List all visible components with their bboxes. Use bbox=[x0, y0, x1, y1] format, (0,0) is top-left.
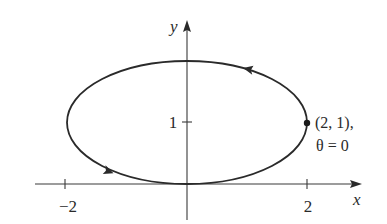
y-tick-label-1: 1 bbox=[169, 113, 178, 132]
point-2-1 bbox=[304, 120, 310, 126]
direction-arrow-top-icon bbox=[242, 64, 253, 74]
ellipse-diagram: y x −2 2 1 (2, 1), θ = 0 bbox=[0, 0, 387, 224]
x-axis-label: x bbox=[352, 190, 361, 209]
x-tick-label-2: 2 bbox=[304, 197, 313, 216]
point-coords-label: (2, 1), bbox=[315, 114, 354, 132]
x-tick-label-neg2: −2 bbox=[59, 197, 77, 216]
y-axis-label: y bbox=[168, 17, 178, 36]
point-theta-label: θ = 0 bbox=[316, 137, 349, 154]
y-axis bbox=[182, 20, 192, 220]
